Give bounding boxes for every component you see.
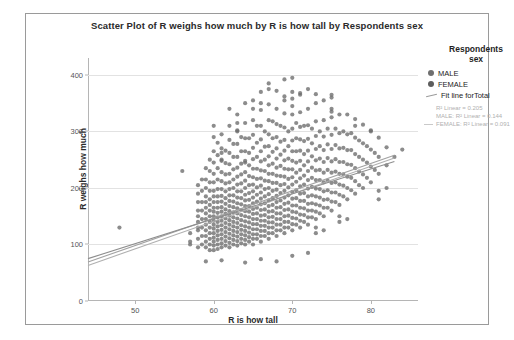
legend-label: FEMALE bbox=[438, 80, 468, 89]
plot-area: 0100200300400 50607080 bbox=[88, 58, 418, 301]
x-tick-label: 80 bbox=[367, 306, 375, 315]
x-tick-label: 50 bbox=[131, 306, 139, 315]
y-tick-label: 300 bbox=[70, 127, 83, 136]
x-tick-mark bbox=[292, 301, 293, 304]
fit-line-female bbox=[88, 161, 394, 258]
legend-line-swatch bbox=[426, 93, 437, 96]
fit-line-total bbox=[88, 158, 394, 265]
legend-title-line2: sex bbox=[424, 54, 514, 64]
legend-title: Respondents sex bbox=[424, 44, 514, 64]
legend-item-female[interactable]: FEMALE bbox=[424, 79, 514, 89]
legend-dot-swatch bbox=[428, 81, 434, 87]
legend-item-fit-line-fortotal[interactable]: Fit line forTotal bbox=[424, 90, 514, 100]
y-tick-label: 0 bbox=[79, 297, 83, 306]
legend: Respondents sex MALEFEMALEFit line forTo… bbox=[424, 44, 514, 128]
r-squared-label: R² Linear = 0.205 bbox=[436, 105, 483, 111]
legend-stat-row: FEMALE: R² Linear = 0.091 bbox=[424, 120, 514, 128]
legend-stats: R² Linear = 0.205MALE: R² Linear = 0.144… bbox=[424, 104, 514, 128]
legend-stat-row: MALE: R² Linear = 0.144 bbox=[424, 112, 514, 120]
legend-label: Fit line forTotal bbox=[441, 91, 490, 100]
legend-item-male[interactable]: MALE bbox=[424, 68, 514, 78]
x-tick-mark bbox=[135, 301, 136, 304]
fit-lines-layer bbox=[88, 58, 418, 301]
y-tick-label: 200 bbox=[70, 183, 83, 192]
y-axis-title: R weighs how much bbox=[78, 128, 88, 210]
x-axis-title: R is how tall bbox=[88, 315, 418, 325]
r-squared-label: FEMALE: R² Linear = 0.091 bbox=[436, 121, 510, 127]
legend-stat-row: R² Linear = 0.205 bbox=[424, 104, 514, 112]
legend-label: MALE bbox=[438, 69, 458, 78]
x-tick-mark bbox=[371, 301, 372, 304]
fit-line-male bbox=[88, 155, 394, 262]
chart-title: Scatter Plot of R weighs how much by R i… bbox=[26, 20, 488, 31]
x-tick-label: 60 bbox=[210, 306, 218, 315]
r-squared-label: MALE: R² Linear = 0.144 bbox=[436, 113, 502, 119]
legend-title-line1: Respondents bbox=[424, 44, 514, 54]
legend-dot-swatch bbox=[428, 70, 434, 76]
y-tick-label: 100 bbox=[70, 240, 83, 249]
y-tick-label: 400 bbox=[70, 70, 83, 79]
stat-line-swatch bbox=[424, 124, 433, 125]
legend-entries: MALEFEMALEFit line forTotal bbox=[424, 68, 514, 100]
x-tick-label: 70 bbox=[288, 306, 296, 315]
chart-frame: Scatter Plot of R weighs how much by R i… bbox=[25, 13, 489, 325]
x-tick-mark bbox=[214, 301, 215, 304]
